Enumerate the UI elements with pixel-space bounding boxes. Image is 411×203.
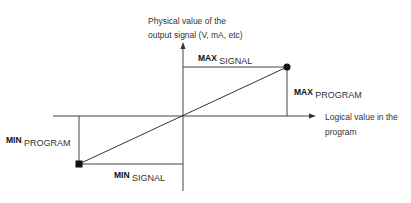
max-point-marker <box>284 64 291 71</box>
max-program-label: MAX PROGRAM <box>294 86 362 98</box>
x-axis-arrow-icon <box>309 114 316 119</box>
min-signal-label: MIN SIGNAL <box>114 169 165 181</box>
min-point-marker <box>76 161 83 168</box>
x-axis-label: Logical value in the program <box>325 111 398 138</box>
min-program-label: MIN PROGRAM <box>6 134 70 146</box>
y-axis-label: Physical value of the output signal (V, … <box>148 15 243 41</box>
max-signal-label: MAX SIGNAL <box>198 52 252 64</box>
y-axis-arrow-icon <box>181 42 186 49</box>
